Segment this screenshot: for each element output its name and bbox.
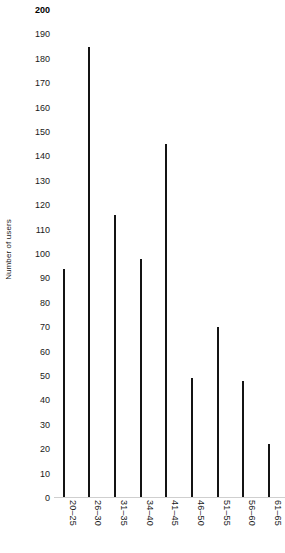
y-axis-tick-label: 170 bbox=[35, 79, 50, 88]
bar bbox=[268, 444, 270, 498]
y-axis-tick-label: 30 bbox=[40, 420, 50, 429]
bar bbox=[63, 269, 65, 498]
x-axis-tick-text: 34–40 bbox=[145, 500, 154, 526]
plot-area bbox=[54, 10, 285, 498]
y-axis-tick-label: 100 bbox=[35, 250, 50, 259]
x-axis-tick-text: 31–35 bbox=[119, 500, 128, 526]
y-axis-tick-label: 110 bbox=[36, 225, 50, 234]
bar bbox=[191, 378, 193, 498]
y-axis-tick-label: 150 bbox=[35, 128, 50, 137]
bar bbox=[242, 381, 244, 498]
x-axis-tick-text: 26–30 bbox=[93, 500, 102, 526]
x-axis-ticks: 20–2526–3031–3534–4041–4546–5051–5556–60… bbox=[54, 498, 285, 553]
y-axis-tick-label: 200 bbox=[35, 6, 50, 15]
y-axis-tick-label: 90 bbox=[40, 274, 50, 283]
x-axis-tick-text: 51–55 bbox=[222, 500, 231, 526]
y-axis-tick-label: 160 bbox=[35, 103, 50, 112]
y-axis-title-label: Number of users bbox=[4, 219, 13, 280]
y-axis-tick-label: 120 bbox=[35, 201, 50, 210]
bar bbox=[140, 259, 142, 498]
bar bbox=[88, 47, 90, 498]
x-axis-tick-label: 61–65 bbox=[273, 500, 285, 550]
bar-series bbox=[54, 10, 285, 498]
y-axis-tick-label: 140 bbox=[35, 152, 50, 161]
bar bbox=[114, 215, 116, 498]
bar bbox=[217, 327, 219, 498]
y-axis-tick-label: 50 bbox=[40, 372, 50, 381]
y-axis-tick-label: 10 bbox=[40, 469, 50, 478]
y-axis-tick-label: 20 bbox=[40, 445, 50, 454]
y-axis-tick-label: 80 bbox=[40, 298, 50, 307]
x-axis-tick-text: 56–60 bbox=[247, 500, 256, 526]
y-axis-ticks: 2001901801701601501401301201101009080706… bbox=[16, 0, 54, 498]
y-axis-tick-label: 40 bbox=[40, 396, 50, 405]
y-axis-tick-label: 180 bbox=[35, 54, 50, 63]
x-axis-tick-text: 46–50 bbox=[196, 500, 205, 526]
y-axis-tick-label: 0 bbox=[45, 494, 50, 503]
y-axis-tick-label: 60 bbox=[40, 347, 50, 356]
bar bbox=[165, 144, 167, 498]
x-axis-tick-text: 20–25 bbox=[68, 500, 77, 526]
x-axis-tick-text: 41–45 bbox=[170, 500, 179, 526]
y-axis-tick-label: 70 bbox=[40, 323, 50, 332]
bar-chart: Number of users 200190180170160150140130… bbox=[0, 0, 285, 553]
y-axis-tick-label: 190 bbox=[35, 30, 50, 39]
y-axis-title: Number of users bbox=[0, 0, 16, 498]
x-axis-tick-text: 61–65 bbox=[273, 500, 282, 526]
y-axis-tick-label: 130 bbox=[35, 176, 50, 185]
